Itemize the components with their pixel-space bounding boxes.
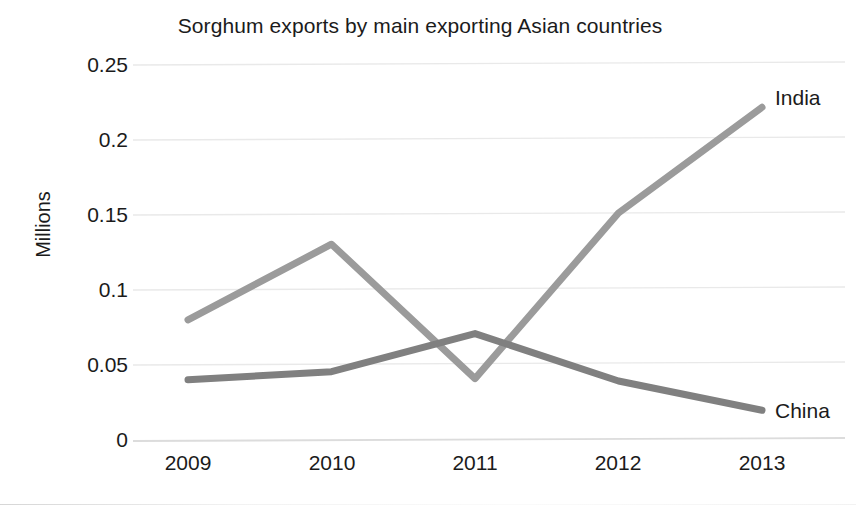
line-chart: Sorghum exports by main exporting Asian … <box>0 0 856 513</box>
gridlines <box>133 62 845 441</box>
x-tick-label-2010: 2010 <box>277 452 387 473</box>
scan-artifact-line <box>0 504 856 505</box>
series-label-india: India <box>775 87 821 108</box>
x-tick-label-2012: 2012 <box>563 452 673 473</box>
series-line-china <box>188 334 762 411</box>
plot-area <box>0 0 856 513</box>
x-tick-label-2013: 2013 <box>707 452 817 473</box>
series-label-china: China <box>775 400 830 421</box>
series-line-india <box>188 107 762 378</box>
x-tick-label-2011: 2011 <box>420 452 530 473</box>
x-tick-label-2009: 2009 <box>133 452 243 473</box>
